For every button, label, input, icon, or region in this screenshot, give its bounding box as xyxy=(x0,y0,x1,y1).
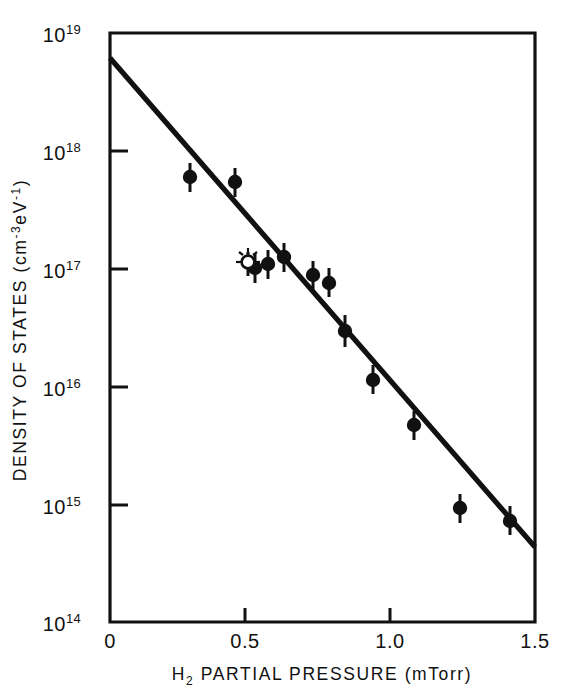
x-tick-labels: 0 0.5 1.0 1.5 xyxy=(104,630,549,652)
x-tick-label-1p5: 1.5 xyxy=(520,630,549,652)
y-title-units-mid: eV xyxy=(10,200,30,225)
x-title-units: (mTorr) xyxy=(405,664,473,684)
density-of-states-plot: 1019 1018 1017 1016 1015 1014 0 0.5 1.0 … xyxy=(0,0,569,698)
y-title-exp2: -1 xyxy=(9,186,23,200)
y-tick-label-1e15: 1015 xyxy=(43,494,82,518)
x-tick-label-0: 0 xyxy=(104,630,116,652)
data-point xyxy=(183,163,197,192)
y-tick-label-1e18: 1018 xyxy=(43,140,82,164)
y-tick-label-1e14: 1014 xyxy=(43,611,82,635)
x-tick-label-1p0: 1.0 xyxy=(375,630,404,652)
svg-text:H2 PARTIAL PRESSURE (mTorr): H2 PARTIAL PRESSURE (mTorr) xyxy=(172,664,472,688)
x-axis-title: H2 PARTIAL PRESSURE (mTorr) xyxy=(172,664,472,688)
y-title-exp1: -3 xyxy=(9,225,23,239)
y-title-units-close: ) xyxy=(10,179,30,186)
x-title-main: PARTIAL PRESSURE xyxy=(201,664,398,684)
fit-line-group xyxy=(110,58,535,547)
x-axis-ticks xyxy=(245,608,390,622)
x-title-species: H xyxy=(172,664,186,684)
x-title-species-sub: 2 xyxy=(186,674,194,688)
y-tick-label-1e16: 1016 xyxy=(43,376,82,400)
y-tick-label-1e19: 1019 xyxy=(43,22,82,46)
data-points-group xyxy=(183,163,517,535)
data-point xyxy=(322,268,336,297)
figure-container: 1019 1018 1017 1016 1015 1014 0 0.5 1.0 … xyxy=(0,0,569,698)
svg-text:DENSITY OF STATES (cm-3eV-1): DENSITY OF STATES (cm-3eV-1) xyxy=(9,179,30,481)
data-point xyxy=(453,494,467,523)
y-tick-labels: 1019 1018 1017 1016 1015 1014 xyxy=(43,22,82,635)
axis-box xyxy=(110,33,535,622)
data-point xyxy=(261,250,275,279)
x-tick-label-0p5: 0.5 xyxy=(230,630,259,652)
exponential-fit-line xyxy=(110,58,535,547)
y-title-units-open: (cm xyxy=(10,239,30,273)
y-axis-ticks xyxy=(110,151,128,505)
plot-frame xyxy=(110,33,535,622)
y-axis-title: DENSITY OF STATES (cm-3eV-1) xyxy=(9,179,30,481)
y-title-main: DENSITY OF STATES xyxy=(10,279,30,481)
y-tick-label-1e17: 1017 xyxy=(43,258,82,282)
